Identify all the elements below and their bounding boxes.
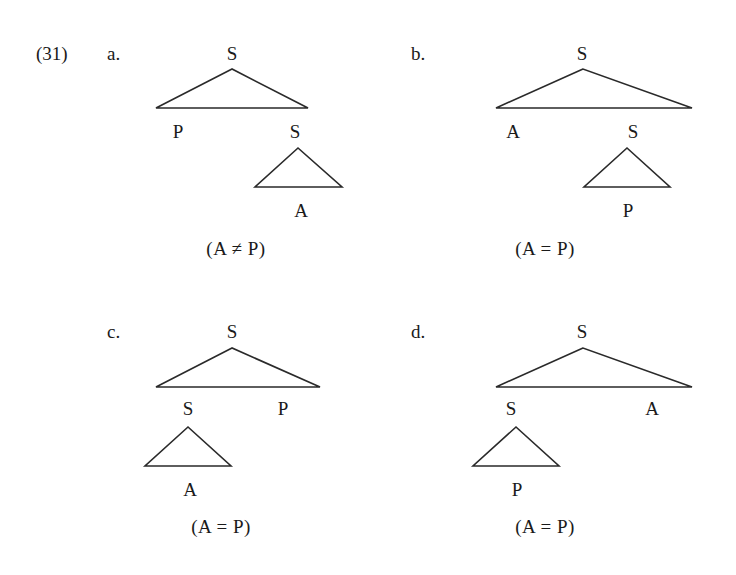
left-child-label: P [173, 122, 184, 141]
right-child-label: P [278, 399, 289, 418]
left-child-label: A [506, 122, 520, 141]
subtree-leaf-label: A [183, 480, 197, 499]
root-node-label: S [227, 322, 238, 341]
panel-letter: c. [107, 322, 120, 341]
condition-label: (A = P) [191, 517, 251, 536]
root-node-label: S [227, 44, 238, 63]
panel-c-subtree-triangle [145, 427, 231, 466]
panel-a-subtree-triangle [255, 148, 342, 187]
panel-b-subtree-triangle [584, 148, 670, 187]
panel-letter: b. [411, 44, 425, 63]
panel-d-subtree-triangle [473, 427, 559, 466]
figure-31: (31) a. S P S A (A ≠ P) b. S A S P (A = … [0, 0, 736, 575]
panel-b-root-triangle [496, 69, 692, 108]
condition-label: (A = P) [515, 517, 575, 536]
left-child-label: S [183, 399, 194, 418]
panel-letter: d. [411, 322, 425, 341]
root-node-label: S [577, 322, 588, 341]
condition-label: (A ≠ P) [206, 239, 265, 258]
root-node-label: S [577, 44, 588, 63]
condition-label: (A = P) [515, 239, 575, 258]
left-child-label: S [506, 399, 517, 418]
right-child-label: S [290, 122, 301, 141]
subtree-leaf-label: P [623, 201, 634, 220]
right-child-label: S [628, 122, 639, 141]
example-number: (31) [36, 44, 68, 63]
tree-lines [0, 0, 736, 575]
subtree-leaf-label: A [294, 201, 308, 220]
panel-a-root-triangle [156, 69, 308, 108]
right-child-label: A [645, 399, 659, 418]
subtree-leaf-label: P [512, 480, 523, 499]
panel-letter: a. [107, 44, 120, 63]
panel-d-root-triangle [496, 348, 692, 387]
panel-c-root-triangle [156, 348, 320, 387]
